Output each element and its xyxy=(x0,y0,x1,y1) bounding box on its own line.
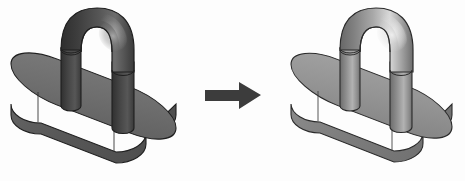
left-base-top-face xyxy=(9,41,176,152)
left-object-render xyxy=(0,0,200,181)
scene-canvas xyxy=(0,0,465,181)
right-object-render xyxy=(282,2,465,181)
transform-arrow xyxy=(203,80,265,114)
arrow-icon xyxy=(203,80,265,114)
right-object xyxy=(282,2,465,181)
left-handle-front-leg xyxy=(112,62,134,134)
left-object xyxy=(0,0,200,181)
